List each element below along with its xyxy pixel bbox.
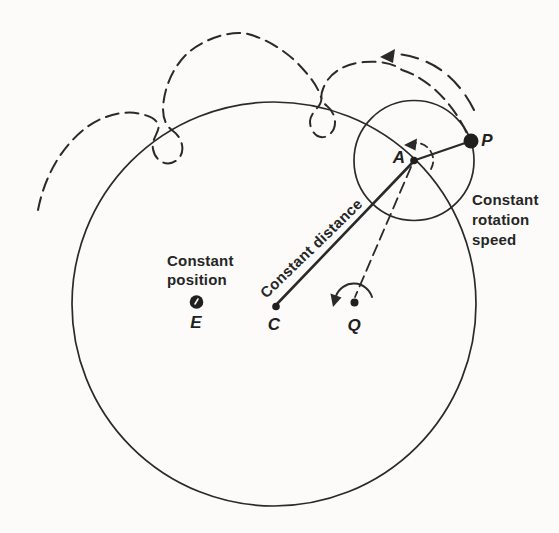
point-Q-label: Q xyxy=(347,317,360,334)
figure-canvas: Constant position Constant distance Cons… xyxy=(0,0,559,533)
point-A-label: A xyxy=(393,149,405,166)
equant-dashed-line xyxy=(355,167,411,297)
epicycle-rotation-arrowhead-icon xyxy=(404,139,417,151)
point-P-dot xyxy=(464,134,479,149)
point-P-label: P xyxy=(481,132,492,149)
constant-position-label: Constant position xyxy=(167,251,234,289)
path-direction-arrowhead-icon xyxy=(380,49,395,63)
point-C-label: C xyxy=(268,316,280,333)
constant-distance-line xyxy=(276,161,414,305)
equant-rotation-arrowhead-icon xyxy=(331,294,342,308)
constant-rotation-speed-label: Constant rotation speed xyxy=(472,190,539,250)
point-E-label: E xyxy=(190,314,201,331)
point-Q-dot xyxy=(351,299,359,307)
equant-rotation-arc xyxy=(336,284,372,297)
point-A-dot xyxy=(410,157,418,165)
point-C-dot xyxy=(272,303,280,311)
